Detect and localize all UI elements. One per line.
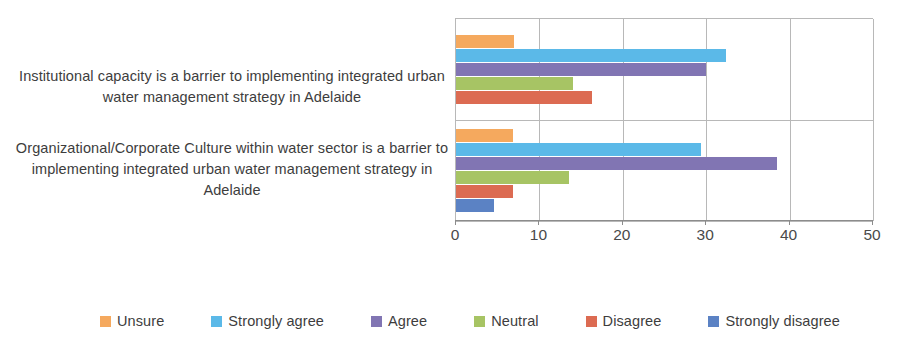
legend-item-strongly-disagree[interactable]: Strongly disagree bbox=[708, 313, 840, 329]
x-axis-line bbox=[455, 220, 873, 221]
bar-strongly-agree-cat1 bbox=[456, 143, 701, 156]
bar-agree-cat1 bbox=[456, 157, 777, 170]
x-tick-label-40: 40 bbox=[780, 226, 797, 244]
x-tick-20 bbox=[622, 220, 623, 225]
bar-unsure-cat0 bbox=[456, 35, 514, 48]
legend-item-neutral[interactable]: Neutral bbox=[474, 313, 538, 329]
legend-item-strongly-agree[interactable]: Strongly agree bbox=[211, 313, 324, 329]
x-tick-40 bbox=[789, 220, 790, 225]
legend-swatch-icon bbox=[211, 316, 222, 327]
bar-unsure-cat1 bbox=[456, 129, 513, 142]
legend-swatch-icon bbox=[708, 316, 719, 327]
legend-label: Strongly agree bbox=[228, 313, 324, 329]
x-tick-30 bbox=[705, 220, 706, 225]
legend-label: Disagree bbox=[603, 313, 662, 329]
legend-label: Neutral bbox=[491, 313, 538, 329]
bar-strongly-agree-cat0 bbox=[456, 49, 726, 62]
category-label-1: Organizational/Corporate Culture within … bbox=[14, 138, 450, 201]
x-tick-label-20: 20 bbox=[613, 226, 630, 244]
bar-disagree-cat1 bbox=[456, 185, 513, 198]
legend-label: Strongly disagree bbox=[725, 313, 840, 329]
bar-strongly-disagree-cat1 bbox=[456, 199, 494, 212]
bar-neutral-cat1 bbox=[456, 171, 569, 184]
legend-swatch-icon bbox=[474, 316, 485, 327]
legend-item-unsure[interactable]: Unsure bbox=[100, 313, 164, 329]
legend-item-disagree[interactable]: Disagree bbox=[586, 313, 662, 329]
bar-chart: Institutional capacity is a barrier to i… bbox=[0, 0, 905, 359]
legend-swatch-icon bbox=[586, 316, 597, 327]
bar-agree-cat0 bbox=[456, 63, 706, 76]
category-label-0: Institutional capacity is a barrier to i… bbox=[14, 66, 450, 108]
legend-label: Agree bbox=[388, 313, 427, 329]
legend-swatch-icon bbox=[371, 316, 382, 327]
x-tick-10 bbox=[538, 220, 539, 225]
plot-area bbox=[455, 18, 873, 222]
x-tick-label-30: 30 bbox=[697, 226, 714, 244]
x-tick-label-10: 10 bbox=[530, 226, 547, 244]
x-tick-label-50: 50 bbox=[863, 226, 880, 244]
category-divider bbox=[456, 120, 873, 121]
plot-right-border bbox=[873, 19, 874, 221]
category-label-column: Institutional capacity is a barrier to i… bbox=[14, 18, 450, 220]
x-axis-tick-labels: 01020304050 bbox=[455, 226, 873, 250]
legend-label: Unsure bbox=[117, 313, 164, 329]
chart-legend: UnsureStrongly agreeAgreeNeutralDisagree… bbox=[100, 306, 840, 336]
x-tick-50 bbox=[872, 220, 873, 225]
bar-neutral-cat0 bbox=[456, 77, 573, 90]
bar-disagree-cat0 bbox=[456, 91, 592, 104]
legend-swatch-icon bbox=[100, 316, 111, 327]
x-tick-label-0: 0 bbox=[451, 226, 460, 244]
legend-item-agree[interactable]: Agree bbox=[371, 313, 427, 329]
x-tick-0 bbox=[455, 220, 456, 225]
